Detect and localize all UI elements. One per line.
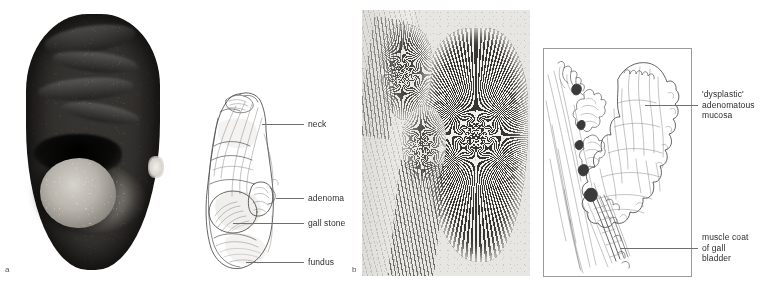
- gross-specimen-photograph: [18, 8, 170, 276]
- panel-letter-b: b: [352, 266, 356, 274]
- leader-line-adenoma: [276, 198, 304, 199]
- label-gall-stone: gall stone: [308, 218, 345, 229]
- micrograph-grain: [362, 10, 530, 276]
- label-muscle-coat-of-gall-bladder: muscle coat of gall bladder: [702, 232, 766, 264]
- photographic-grain: [18, 8, 170, 276]
- label-neck: neck: [308, 119, 326, 130]
- photograph-content: [18, 8, 170, 276]
- histology-schematic-svg: [544, 49, 691, 276]
- label-fundus: fundus: [308, 257, 334, 268]
- leader-line-gall-stone: [233, 223, 304, 224]
- histology-micrograph: [362, 10, 530, 276]
- leader-line-dysplastic-mucosa: [645, 105, 698, 106]
- gallbladder-diagram-svg: [196, 88, 292, 274]
- label-dysplastic-adenomatous-mucosa: 'dysplastic' adenomatous mucosa: [702, 89, 766, 121]
- leader-line-muscle-coat: [620, 248, 698, 249]
- leader-line-neck: [262, 124, 304, 125]
- label-adenoma: adenoma: [308, 193, 344, 204]
- panel-letter-a: a: [5, 266, 9, 274]
- figure-root: a: [0, 0, 767, 287]
- gallbladder-line-diagram: [196, 88, 292, 274]
- leader-line-fundus: [246, 262, 304, 263]
- histology-schematic-box: [543, 48, 692, 277]
